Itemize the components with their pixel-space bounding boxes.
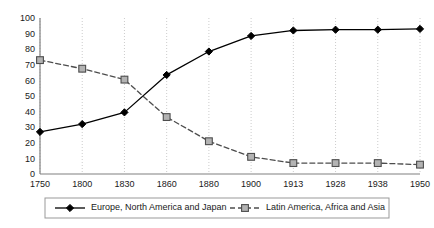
y-tick-label: 10 bbox=[25, 154, 35, 164]
x-axis-ticks: 1750180018301860188019001913192819381950 bbox=[30, 179, 430, 189]
y-tick-label: 50 bbox=[25, 91, 35, 101]
x-tick-label: 1830 bbox=[114, 179, 134, 189]
x-tick-label: 1860 bbox=[157, 179, 177, 189]
data-point-marker-diamond bbox=[248, 32, 255, 39]
y-tick-label: 60 bbox=[25, 76, 35, 86]
data-point-marker-square bbox=[332, 160, 339, 167]
y-tick-label: 40 bbox=[25, 107, 35, 117]
data-point-marker-diamond bbox=[205, 48, 212, 55]
x-tick-label: 1750 bbox=[30, 179, 50, 189]
x-tick-label: 1900 bbox=[241, 179, 261, 189]
data-point-marker-square bbox=[290, 160, 297, 167]
y-tick-label: 0 bbox=[30, 169, 35, 179]
data-point-marker-diamond bbox=[36, 128, 43, 135]
grid-lines bbox=[40, 18, 420, 174]
data-point-marker-diamond bbox=[79, 120, 86, 127]
y-tick-label: 80 bbox=[25, 44, 35, 54]
series-line bbox=[40, 29, 420, 132]
y-axis-ticks: 0102030405060708090100 bbox=[20, 13, 35, 179]
data-point-marker-square bbox=[37, 57, 44, 64]
data-point-marker-square bbox=[163, 114, 170, 121]
data-point-marker-diamond bbox=[374, 26, 381, 33]
legend: Europe, North America and JapanLatin Ame… bbox=[45, 198, 389, 218]
data-point-marker-square bbox=[121, 76, 128, 83]
line-chart: 0102030405060708090100175018001830186018… bbox=[0, 0, 434, 228]
data-point-marker-square bbox=[205, 138, 212, 145]
data-point-marker-diamond bbox=[416, 25, 423, 32]
x-tick-label: 1800 bbox=[72, 179, 92, 189]
series-line bbox=[40, 60, 420, 165]
data-point-marker-square bbox=[79, 65, 86, 72]
y-tick-label: 90 bbox=[25, 29, 35, 39]
legend-label-latin-america-africa-asia: Latin America, Africa and Asia bbox=[266, 202, 385, 212]
axes bbox=[40, 18, 420, 174]
x-tick-label: 1950 bbox=[410, 179, 430, 189]
y-tick-label: 20 bbox=[25, 138, 35, 148]
series-1 bbox=[36, 25, 423, 135]
data-point-marker-square bbox=[242, 205, 249, 212]
x-tick-label: 1928 bbox=[326, 179, 346, 189]
y-tick-label: 100 bbox=[20, 13, 35, 23]
data-point-marker-square bbox=[374, 160, 381, 167]
chart-canvas: 0102030405060708090100175018001830186018… bbox=[0, 0, 434, 228]
x-tick-label: 1938 bbox=[368, 179, 388, 189]
data-point-marker-square bbox=[248, 153, 255, 160]
y-tick-label: 70 bbox=[25, 60, 35, 70]
data-point-marker-square bbox=[417, 161, 424, 168]
legend-label-europe-north-america-japan: Europe, North America and Japan bbox=[91, 202, 227, 212]
x-tick-label: 1880 bbox=[199, 179, 219, 189]
x-tick-label: 1913 bbox=[283, 179, 303, 189]
series-2 bbox=[37, 57, 424, 168]
data-point-marker-diamond bbox=[332, 26, 339, 33]
data-point-marker-diamond bbox=[290, 27, 297, 34]
y-tick-label: 30 bbox=[25, 122, 35, 132]
